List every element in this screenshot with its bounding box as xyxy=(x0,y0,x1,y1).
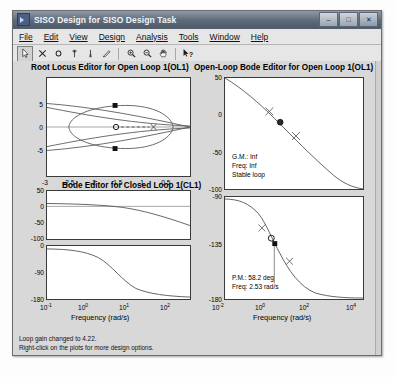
ol-phase-xtick-1-exp: -2 xyxy=(219,302,223,308)
ol-phase-xtick-1: 10-2 xyxy=(212,302,224,311)
root-locus-plot[interactable] xyxy=(46,77,191,177)
add-complex-zero-icon[interactable] xyxy=(83,47,97,61)
cl-phase-xtick-2-exp: 0 xyxy=(85,302,88,308)
cl-mag-ytick-50: 50 xyxy=(28,187,44,194)
window-controls: – □ ✕ xyxy=(319,12,379,27)
title-bar[interactable]: SISO Design for SISO Design Task – □ ✕ xyxy=(13,11,381,29)
root-locus-xtick-neg1p5: -1.5 xyxy=(111,179,122,186)
close-icon: ✕ xyxy=(366,16,372,23)
cl-phase-xtick-1: 10-1 xyxy=(40,302,52,311)
ol-mag-ytick-neg100: -100 xyxy=(201,186,222,193)
menu-help-label: Help xyxy=(251,32,268,42)
menu-help[interactable]: Help xyxy=(251,32,268,42)
root-locus-svg xyxy=(47,78,190,176)
maximize-button[interactable]: □ xyxy=(339,12,358,27)
minimize-icon: – xyxy=(327,16,331,23)
cl-phase-svg xyxy=(47,246,190,299)
ol-phase-xtick-4: 104 xyxy=(346,302,356,311)
pointer-icon[interactable] xyxy=(17,46,33,62)
cl-phase-xtick-4: 102 xyxy=(160,302,170,311)
cl-mag-ytick-neg50: -50 xyxy=(26,219,44,226)
menu-window[interactable]: Window xyxy=(210,32,240,42)
status-line-gain: Loop gain changed to 4.22. xyxy=(19,334,371,343)
menu-file-label: File xyxy=(19,32,33,42)
add-complex-pole-icon[interactable] xyxy=(67,47,81,61)
cl-mag-svg xyxy=(47,191,190,239)
root-locus-xtick-neg1: -1 xyxy=(138,179,144,186)
ol-phase-xtick-4-exp: 4 xyxy=(353,302,356,308)
maximize-icon: □ xyxy=(346,16,350,23)
status-bar: Loop gain changed to 4.22. Right-click o… xyxy=(16,333,374,353)
cl-phase-xtick-3-exp: 1 xyxy=(126,302,129,308)
pan-icon[interactable] xyxy=(156,47,170,61)
ol-phase-xtick-2-exp: 0 xyxy=(262,302,265,308)
zoom-in-icon[interactable] xyxy=(124,47,138,61)
gain-margin-text: G.M.: Inf xyxy=(232,153,257,161)
help-pointer-icon[interactable]: ? xyxy=(181,47,195,61)
svg-text:?: ? xyxy=(188,50,193,59)
siso-design-window: SISO Design for SISO Design Task – □ ✕ F… xyxy=(12,10,382,356)
closed-loop-bode-phase-plot[interactable] xyxy=(46,245,191,300)
cl-phase-ytick-neg90: -90 xyxy=(26,269,44,276)
menu-design[interactable]: Design xyxy=(99,32,125,42)
closed-loop-bode-title: Bode Editor for Closed Loop 1(CL1) xyxy=(62,181,201,190)
menu-edit[interactable]: Edit xyxy=(44,32,59,42)
vertical-scrollbar[interactable] xyxy=(375,61,381,355)
open-loop-bode-title: Open-Loop Bode Editor for Open Loop 1(OL… xyxy=(194,63,373,72)
root-locus-xtick-neg2p5: -2.5 xyxy=(63,179,74,186)
minimize-button[interactable]: – xyxy=(319,12,338,27)
plot-client-area: Root Locus Editor for Open Loop 1(OL1) O… xyxy=(13,61,381,355)
root-locus-xtick-neg2: -2 xyxy=(90,179,96,186)
pm-frequency-text: Freq: 2.53 rad/s xyxy=(232,283,279,291)
stability-text: Stable loop xyxy=(232,171,265,179)
left-frequency-axis-label: Frequency (rad/s) xyxy=(71,313,129,322)
root-locus-xtick-neg0p5: -0.5 xyxy=(159,179,170,186)
root-locus-ytick-0: 0 xyxy=(28,124,43,131)
plots-container: Root Locus Editor for Open Loop 1(OL1) O… xyxy=(16,63,374,335)
cl-mag-ytick-neg100: -100 xyxy=(23,235,44,242)
cl-phase-xtick-1-exp: -1 xyxy=(47,302,51,308)
edit-compensator-icon[interactable] xyxy=(99,47,113,61)
screen: SISO Design for SISO Design Task – □ ✕ F… xyxy=(0,0,395,377)
menu-bar: File Edit View Design Analysis Tools Win… xyxy=(13,29,381,45)
cl-phase-ytick-0: 0 xyxy=(30,242,44,249)
ol-phase-xtick-2: 100 xyxy=(255,302,265,311)
ol-mag-ytick-0: 0 xyxy=(206,111,222,118)
add-zero-icon[interactable] xyxy=(51,47,65,61)
menu-view[interactable]: View xyxy=(69,32,87,42)
root-locus-ytick-neg5: -5 xyxy=(28,147,43,154)
status-line-hint: Right-click on the plots for more design… xyxy=(19,343,371,352)
delete-pole-zero-icon[interactable] xyxy=(35,47,49,61)
menu-window-label: Window xyxy=(210,32,240,42)
menu-edit-label: Edit xyxy=(44,32,59,42)
root-locus-xtick-neg3: -3 xyxy=(42,179,48,186)
ol-phase-xtick-3-exp: 2 xyxy=(306,302,309,308)
close-button[interactable]: ✕ xyxy=(359,12,378,27)
menu-tools[interactable]: Tools xyxy=(179,32,199,42)
ol-mag-ytick-50: 50 xyxy=(206,74,222,81)
gm-frequency-text: Freq: Inf xyxy=(232,162,257,170)
matlab-siso-icon xyxy=(17,13,30,26)
toolbar-separator-1 xyxy=(118,48,119,60)
menu-view-label: View xyxy=(69,32,87,42)
closed-loop-bode-magnitude-plot[interactable] xyxy=(46,190,191,240)
menu-design-label: Design xyxy=(99,32,125,42)
menu-analysis[interactable]: Analysis xyxy=(136,32,168,42)
toolbar-separator-2 xyxy=(175,48,176,60)
cl-phase-xtick-3: 101 xyxy=(119,302,129,311)
cl-mag-ytick-0: 0 xyxy=(28,203,44,210)
phase-margin-text: P.M.: 58.2 deg xyxy=(232,274,274,282)
root-locus-title: Root Locus Editor for Open Loop 1(OL1) xyxy=(31,63,189,72)
menu-tools-label: Tools xyxy=(179,32,199,42)
window-title: SISO Design for SISO Design Task xyxy=(34,15,176,25)
root-locus-ytick-5: 5 xyxy=(28,101,43,108)
menu-file[interactable]: File xyxy=(19,32,33,42)
cl-phase-xtick-2: 100 xyxy=(78,302,88,311)
ol-phase-ytick-neg135: -135 xyxy=(199,241,222,248)
right-frequency-axis-label: Frequency (rad/s) xyxy=(253,313,311,322)
ol-phase-ytick-neg90: -90 xyxy=(202,193,222,200)
menu-analysis-label: Analysis xyxy=(136,32,168,42)
ol-mag-ytick-neg50: -50 xyxy=(204,149,222,156)
cl-phase-xtick-4-exp: 2 xyxy=(167,302,170,308)
zoom-out-icon[interactable] xyxy=(140,47,154,61)
